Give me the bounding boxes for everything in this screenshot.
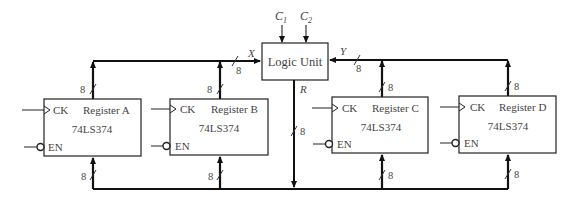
reg-a-part: 74LS374 [72, 123, 113, 135]
bus-y-width: 8 [356, 63, 361, 74]
reg-c-name: Register C [372, 102, 419, 114]
bus-y-label: Y [340, 45, 348, 57]
control-input-c2: C2 [300, 9, 312, 42]
bus-y: Y 8 8 8 [330, 45, 519, 97]
svg-text:C1: C1 [275, 9, 287, 25]
reg-a-out-width: 8 [80, 84, 85, 95]
reg-d-name: Register D [499, 101, 546, 113]
bus-r-label: R [299, 83, 307, 95]
reg-a-name: Register A [83, 104, 130, 116]
reg-a-ck: CK [53, 104, 68, 116]
reg-b-en: EN [175, 140, 190, 152]
register-c: CK Register C 74LS374 EN [312, 97, 428, 153]
logic-unit-label: Logic Unit [268, 55, 323, 69]
reg-c-in-width: 8 [388, 170, 393, 181]
register-a: CK Register A 74LS374 EN [22, 99, 141, 156]
reg-d-ck: CK [470, 101, 485, 113]
reg-c-ck: CK [342, 102, 357, 114]
bus-x: X 8 8 8 [80, 47, 260, 99]
reg-b-name: Register B [211, 103, 258, 115]
reg-d-part: 74LS374 [488, 120, 529, 132]
active-low-bubble-icon [163, 143, 170, 150]
reg-b-part: 74LS374 [199, 122, 240, 134]
register-bus-diagram: Logic Unit C1 C2 X 8 8 8 Y 8 8 8 [0, 0, 586, 203]
control-input-c1: C1 [275, 9, 287, 42]
reg-d-en: EN [464, 137, 479, 149]
reg-c-out-width: 8 [388, 82, 393, 93]
register-d: CK Register D 74LS374 EN [440, 96, 556, 153]
reg-d-in-width: 8 [514, 169, 519, 180]
reg-a-in-width: 8 [81, 171, 86, 182]
reg-b-ck: CK [180, 103, 195, 115]
reg-b-out-width: 8 [207, 84, 212, 95]
bus-r-width: 8 [300, 126, 305, 137]
register-b: CK Register B 74LS374 EN [151, 99, 268, 155]
reg-a-en: EN [48, 141, 63, 153]
bus-x-width: 8 [236, 65, 241, 76]
reg-d-out-width: 8 [514, 81, 519, 92]
bus-x-label: X [247, 47, 256, 59]
reg-b-in-width: 8 [208, 171, 213, 182]
bus-r: R 8 8 8 8 8 [81, 80, 519, 189]
reg-c-en: EN [337, 138, 352, 150]
svg-text:C2: C2 [300, 9, 312, 25]
active-low-bubble-icon [37, 144, 44, 151]
active-low-bubble-icon [326, 141, 333, 148]
logic-unit: Logic Unit [262, 43, 328, 80]
active-low-bubble-icon [452, 140, 459, 147]
reg-c-part: 74LS374 [361, 121, 402, 133]
